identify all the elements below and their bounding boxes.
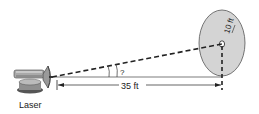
angle-arc-1 [108, 66, 109, 77]
arrow-right [215, 83, 221, 87]
angle-arc-2 [116, 64, 117, 77]
laser-target-diagram: ? 35 ft 10 ft Laser [0, 0, 259, 114]
arrow-left [58, 83, 64, 87]
laser-label: Laser [19, 100, 42, 110]
laser-device [14, 66, 53, 94]
distance-label: 35 ft [121, 81, 139, 91]
laser-beam-dashed [52, 44, 222, 77]
angle-label: ? [120, 68, 125, 77]
